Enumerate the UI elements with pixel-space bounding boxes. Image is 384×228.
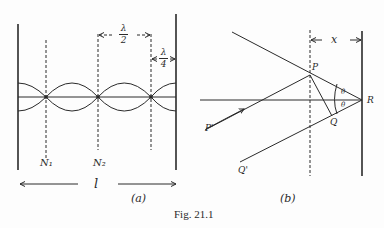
- angle-arc: [335, 84, 338, 114]
- lambda-quarter-label: λ 4: [159, 48, 168, 69]
- lambda-half-label: λ 2: [119, 24, 128, 45]
- node-label-n2: N₂: [93, 158, 106, 168]
- point-q-label: Q: [330, 118, 337, 127]
- segment-pq: [310, 75, 332, 116]
- length-label: l: [94, 177, 98, 190]
- lambda-quarter-numerator: λ: [161, 48, 167, 57]
- figure-21-1: λ 2 λ 4 N₁ N₂ l (a) x P R Q P' Q' θ θ (b…: [0, 0, 384, 228]
- figure-caption: Fig. 21.1: [174, 208, 213, 220]
- panel-a-label: (a): [131, 193, 146, 204]
- panel-b-graphics: [200, 30, 362, 176]
- angle-theta-upper: θ: [341, 89, 345, 96]
- ray-q-prime: [240, 100, 362, 162]
- angle-theta-lower: θ: [341, 102, 345, 109]
- point-p-label: P: [312, 63, 318, 72]
- diagram-lines: [0, 0, 384, 228]
- lambda-quarter-denominator: 4: [161, 60, 167, 69]
- distance-x-label: x: [331, 34, 337, 45]
- lambda-half-denominator: 2: [121, 36, 127, 45]
- point-p-prime-label: P': [205, 124, 214, 133]
- lambda-half-numerator: λ: [121, 24, 127, 33]
- wave-envelope-upper: [18, 83, 176, 97]
- panel-b-label: (b): [280, 193, 296, 204]
- point-r-label: R: [367, 96, 374, 105]
- node-label-n1: N₁: [40, 158, 53, 168]
- wave-envelope-lower: [18, 97, 176, 111]
- point-q-prime-label: Q': [238, 166, 248, 175]
